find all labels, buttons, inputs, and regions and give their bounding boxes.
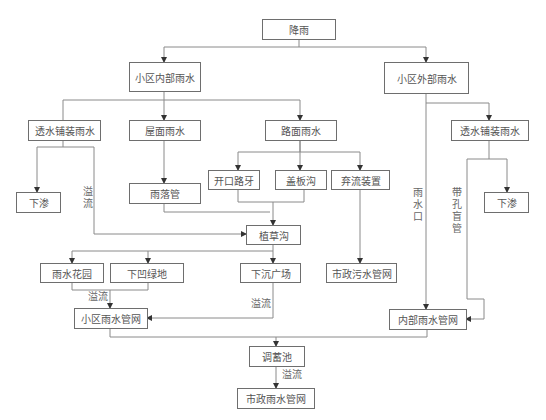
- node-road-rain: 路面雨水: [265, 120, 337, 141]
- node-inner-rain: 小区内部雨水: [129, 62, 201, 92]
- node-storage-pond: 调蓄池: [249, 346, 305, 367]
- node-diversion-device: 弃流装置: [331, 170, 390, 190]
- edge-label-rain-inlet: 雨水口: [412, 187, 423, 223]
- node-roof-rain: 屋面雨水: [129, 120, 201, 141]
- node-grass-swale: 植草沟: [246, 225, 301, 245]
- node-sunken-plaza: 下沉广场: [240, 263, 301, 283]
- edge-label-overflow-gardens: 溢流: [88, 291, 108, 303]
- rainwater-flow-diagram: 降雨 小区内部雨水 小区外部雨水 透水铺装雨水 屋面雨水 路面雨水 透水铺装雨水…: [0, 0, 546, 420]
- node-downpipe: 雨落管: [129, 183, 201, 204]
- node-sunken-green: 下凹绿地: [110, 263, 184, 283]
- node-permeable-left: 透水铺装雨水: [28, 120, 101, 141]
- edge-label-overflow-left: 溢流: [82, 186, 93, 210]
- node-infiltrate-right: 下渗: [484, 192, 529, 213]
- node-open-curb: 开口路牙: [208, 170, 260, 190]
- edge-label-perforated-pipe: 带孔盲管: [451, 187, 462, 235]
- node-municipal-storm-net: 市政雨水管网: [237, 388, 315, 409]
- edge-label-overflow-pond: 溢流: [282, 369, 302, 381]
- node-permeable-right: 透水铺装雨水: [451, 120, 529, 141]
- node-cover-ditch: 盖板沟: [275, 170, 327, 190]
- edge-label-overflow-plaza: 溢流: [251, 298, 271, 310]
- node-municipal-sewage: 市政污水管网: [326, 263, 397, 283]
- node-community-storm-net: 小区雨水管网: [74, 308, 148, 329]
- node-rain: 降雨: [262, 19, 336, 40]
- node-rain-garden: 雨水花园: [40, 263, 104, 283]
- node-internal-storm-net: 内部雨水管网: [389, 309, 467, 330]
- node-infiltrate-left: 下渗: [16, 192, 61, 213]
- node-outer-rain: 小区外部雨水: [384, 62, 469, 94]
